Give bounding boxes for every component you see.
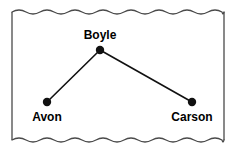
node-label-avon: Avon [32,110,62,124]
edge-boyle-carson [100,50,192,102]
edge-boyle-avon [47,50,100,102]
frame-bottom-wavy-edge [12,138,224,142]
node-dot-boyle [96,46,104,54]
frame-top-wavy-edge [12,10,224,14]
edge-layer [47,50,192,102]
node-layer [43,46,196,106]
node-link-diagram: BoyleAvonCarson [0,0,238,153]
node-label-boyle: Boyle [84,28,117,42]
label-layer: BoyleAvonCarson [32,28,212,124]
node-dot-avon [43,98,51,106]
node-dot-carson [188,98,196,106]
node-label-carson: Carson [171,110,212,124]
diagram-canvas: BoyleAvonCarson [0,0,238,153]
